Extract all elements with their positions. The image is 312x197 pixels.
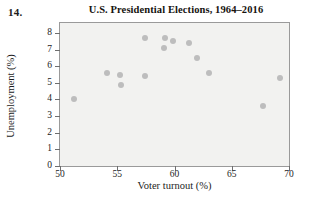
y-tick-label: 3	[47, 111, 52, 121]
data-point	[170, 38, 176, 44]
y-tick-label: 2	[47, 128, 52, 138]
y-tick-label: 1	[47, 145, 52, 155]
y-tick-mark	[55, 83, 60, 84]
y-tick-mark	[55, 66, 60, 67]
x-tick-label: 55	[113, 170, 123, 180]
data-point	[142, 73, 148, 79]
data-point	[71, 96, 77, 102]
data-point	[186, 40, 192, 46]
data-point	[162, 35, 168, 41]
x-tick-label: 50	[55, 170, 65, 180]
data-point	[260, 103, 266, 109]
y-axis-title: Unemployment (%)	[5, 54, 16, 138]
y-tick-mark	[55, 50, 60, 51]
y-tick-label: 8	[47, 28, 52, 38]
y-tick-mark	[55, 149, 60, 150]
plot-area: 012345678 5055606570	[59, 22, 290, 167]
y-tick-label: 5	[47, 78, 52, 88]
y-tick-label: 0	[47, 161, 52, 171]
chart-title: U.S. Presidential Elections, 1964–2016	[60, 4, 292, 15]
y-tick-label: 4	[47, 95, 52, 105]
problem-number: 14.	[8, 6, 22, 18]
x-tick-label: 60	[170, 170, 180, 180]
data-point	[117, 72, 123, 78]
y-tick-mark	[55, 133, 60, 134]
y-tick-mark	[55, 99, 60, 100]
scatter-plot-figure: 14. U.S. Presidential Elections, 1964–20…	[0, 0, 312, 197]
y-tick-mark	[55, 116, 60, 117]
y-tick-mark	[55, 33, 60, 34]
data-point	[118, 82, 124, 88]
data-point	[142, 35, 148, 41]
y-tick-label: 6	[47, 61, 52, 71]
data-point	[161, 45, 167, 51]
data-point	[104, 70, 110, 76]
x-axis-title: Voter turnout (%)	[59, 180, 290, 191]
x-tick-label: 65	[227, 170, 237, 180]
data-point	[206, 70, 212, 76]
data-point	[194, 55, 200, 61]
x-tick-label: 70	[284, 170, 294, 180]
data-point	[277, 75, 283, 81]
y-tick-label: 7	[47, 45, 52, 55]
